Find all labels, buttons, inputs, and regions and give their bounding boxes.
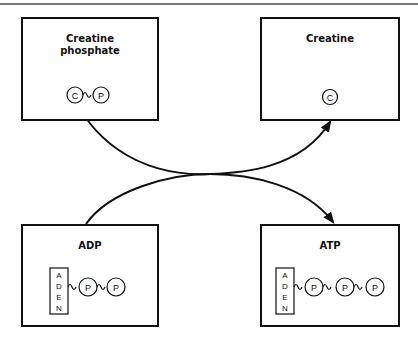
svg-text:D: D — [56, 282, 62, 291]
creatine-molecule: C — [323, 90, 338, 105]
arrow-adp-to-atp — [86, 174, 333, 224]
svg-text:A: A — [56, 271, 62, 280]
svg-text:E: E — [282, 293, 287, 302]
svg-text:P: P — [98, 91, 104, 101]
svg-text:P: P — [342, 283, 348, 293]
svg-text:C: C — [72, 91, 79, 101]
svg-text:P: P — [113, 283, 119, 293]
svg-text:N: N — [56, 304, 62, 313]
bond-squiggle — [83, 93, 91, 98]
svg-text:D: D — [282, 282, 288, 291]
svg-text:C: C — [327, 93, 334, 103]
creatine-phosphate-molecule: C P — [67, 87, 109, 103]
svg-text:E: E — [56, 293, 61, 302]
svg-text:N: N — [282, 304, 288, 313]
atp-molecule: A D E N P P P — [276, 268, 384, 314]
adp-molecule: A D E N P P — [50, 268, 125, 314]
arrow-cp-to-creatine — [88, 121, 330, 174]
svg-text:P: P — [311, 283, 317, 293]
svg-text:P: P — [85, 283, 91, 293]
svg-text:A: A — [282, 271, 288, 280]
svg-text:P: P — [372, 283, 378, 293]
diagram-graphics: C P C A D E N P P A D E N P P P — [0, 0, 418, 345]
